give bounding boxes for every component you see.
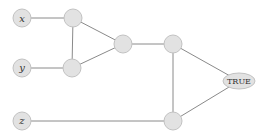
gate-node-1 xyxy=(64,9,82,27)
node-label-y: y xyxy=(18,62,25,73)
input-node-x: x xyxy=(13,9,31,27)
gate-node-3 xyxy=(114,35,132,53)
output-label: TRUE xyxy=(227,77,251,86)
node-label-x: x xyxy=(19,13,25,24)
input-node-z: z xyxy=(13,112,31,130)
gate-node-4 xyxy=(164,35,182,53)
gate-node-2 xyxy=(63,59,81,77)
edges xyxy=(22,18,239,121)
gate-node-5 xyxy=(164,112,182,130)
input-node-y: y xyxy=(13,59,31,77)
output-node-true: TRUE xyxy=(223,73,255,89)
node-label-z: z xyxy=(18,115,25,126)
circuit-diagram: x y z TRUE xyxy=(0,0,269,138)
